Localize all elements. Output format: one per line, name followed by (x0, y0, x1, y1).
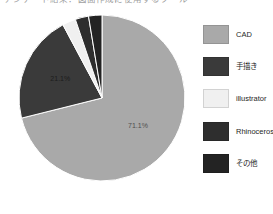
legend-item[interactable]: Rhinoceross (203, 115, 273, 147)
pie-slice-label: 21.1% (50, 75, 70, 82)
pie-slice-label: 71.1% (128, 122, 148, 129)
legend-item-label: 手描き (236, 62, 257, 71)
legend-swatch-icon (203, 57, 229, 76)
legend-swatch-icon (203, 122, 229, 141)
legend-item-label: Rhinoceross (236, 127, 273, 136)
chart-title: アンケート結果：図面作成に使用するツール (4, 0, 204, 4)
legend-item[interactable]: その他 (203, 148, 273, 180)
legend-swatch-icon (203, 89, 229, 108)
legend-item-label: illustrator (236, 94, 266, 103)
legend-swatch-icon (203, 154, 229, 173)
chart-legend: CAD手描きillustratorRhinocerossその他 (203, 18, 273, 180)
plot-area: 71.1%21.1% (0, 8, 196, 214)
legend-swatch-icon (203, 25, 229, 44)
pie-chart: 71.1%21.1% (18, 14, 186, 182)
pie-slices (19, 15, 185, 181)
legend-item-label: CAD (236, 30, 252, 39)
legend-item[interactable]: CAD (203, 18, 273, 50)
legend-item[interactable]: 手描き (203, 50, 273, 82)
legend-item[interactable]: illustrator (203, 83, 273, 115)
legend-item-label: その他 (236, 159, 257, 168)
